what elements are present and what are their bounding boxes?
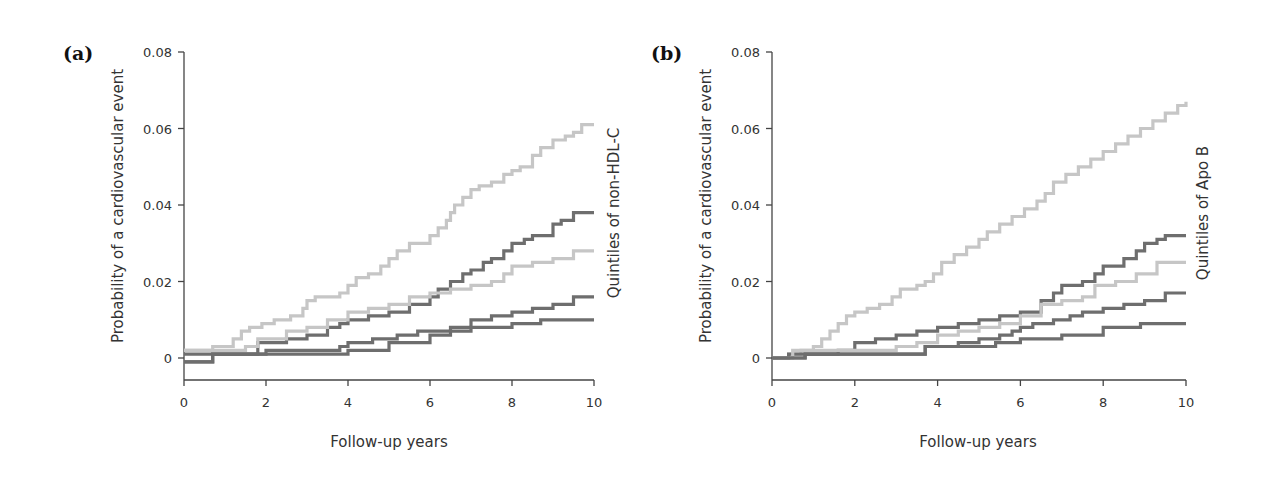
y-tick-label: 0.04 (731, 198, 760, 213)
y-tick-label: 0.06 (731, 122, 760, 137)
y-tick-label: 0.08 (731, 45, 760, 60)
x-tick-label: 6 (1016, 395, 1024, 410)
x-tick-label: 2 (262, 395, 270, 410)
y-tick-label: 0.06 (143, 122, 172, 137)
x-tick-label: 0 (180, 395, 188, 410)
x-tick-label: 4 (933, 395, 941, 410)
legend-label: Quintiles of Apo B (1194, 146, 1212, 280)
y-tick-label: 0.08 (143, 45, 172, 60)
panel-a-chart: (a) Probability of a cardiovascular even… (63, 42, 623, 451)
y-axis-title: Probability of a cardiovascular event (109, 69, 127, 343)
series-line-quintile-1 (184, 320, 594, 362)
x-tick-label: 0 (768, 395, 776, 410)
series-group (772, 102, 1186, 358)
panel-label: (a) (63, 42, 93, 64)
x-tick-label: 8 (508, 395, 516, 410)
y-tick-label: 0.02 (143, 275, 172, 290)
y-tick-label: 0.02 (731, 275, 760, 290)
panel-label: (b) (651, 42, 682, 64)
panel-b-chart: (b) Probability of a cardiovascular even… (651, 42, 1212, 451)
series-line-quintile-4 (184, 213, 594, 355)
x-tick-label: 10 (586, 395, 603, 410)
y-tick-label: 0.04 (143, 198, 172, 213)
x-axis-title: Follow-up years (330, 433, 448, 451)
x-tick-label: 10 (1178, 395, 1195, 410)
x-tick-label: 6 (426, 395, 434, 410)
series-group (184, 125, 594, 362)
legend-label: Quintiles of non-HDL-C (605, 128, 623, 299)
y-tick-label: 0 (164, 351, 172, 366)
x-tick-label: 8 (1099, 395, 1107, 410)
x-tick-label: 4 (344, 395, 352, 410)
series-line-quintile-2 (772, 293, 1186, 358)
x-axis-title: Follow-up years (919, 433, 1037, 451)
x-tick-label: 2 (851, 395, 859, 410)
figure: (a) Probability of a cardiovascular even… (0, 0, 1266, 489)
y-tick-label: 0 (752, 351, 760, 366)
y-axis-title: Probability of a cardiovascular event (697, 69, 715, 343)
